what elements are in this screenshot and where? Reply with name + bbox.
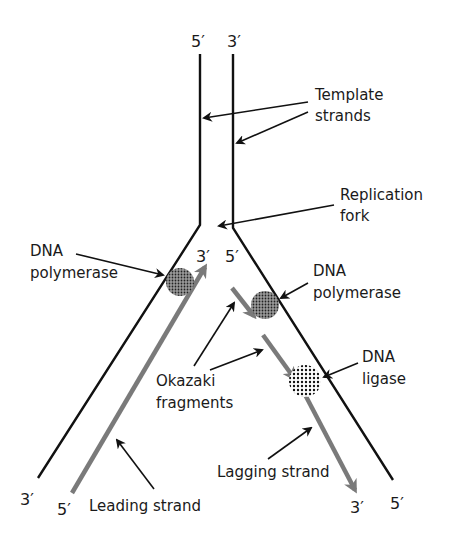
label-polymerase-left-line2: polymerase xyxy=(30,264,118,282)
label-bottom-left-5prime: 5′ xyxy=(57,500,71,519)
label-lagging-strand: Lagging strand xyxy=(217,463,330,481)
leading-strand-pointer xyxy=(117,440,154,489)
lagging-strand-pointer xyxy=(268,428,311,459)
label-fork-5prime: 5′ xyxy=(225,247,239,266)
label-top-5prime: 5′ xyxy=(191,32,205,51)
descriptive-labels: Template strands Replication fork DNA po… xyxy=(30,86,423,515)
label-template-line1: Template xyxy=(314,86,383,104)
label-top-3prime: 3′ xyxy=(227,32,241,51)
label-polymerase-right-line2: polymerase xyxy=(313,284,401,302)
ligase-pointer xyxy=(324,363,358,377)
label-fork-line2: fork xyxy=(340,207,370,225)
okazaki-fragment-2 xyxy=(263,335,294,378)
label-polymerase-left-line1: DNA xyxy=(30,242,64,260)
dna-replication-diagram: 5′ 3′ 3′ 5′ 3′ 5′ 3′ 5′ Template strands… xyxy=(0,0,452,540)
okazaki-pointer-upper xyxy=(194,303,234,366)
okazaki-fragment-1 xyxy=(232,288,254,316)
dna-ligase-icon xyxy=(289,365,321,397)
label-fork-line1: Replication xyxy=(340,186,423,204)
okazaki-pointer-lower xyxy=(210,350,262,370)
fork-pointer xyxy=(219,205,334,226)
label-bottom-right-3prime: 3′ xyxy=(350,498,364,517)
label-ligase-line2: ligase xyxy=(362,370,406,388)
dna-polymerase-left-icon xyxy=(166,268,194,296)
label-leading-strand: Leading strand xyxy=(89,497,201,515)
label-template-line2: strands xyxy=(315,107,371,125)
dna-polymerase-right-icon xyxy=(251,291,279,319)
label-ligase-line1: DNA xyxy=(362,348,396,366)
label-fork-3prime: 3′ xyxy=(196,247,210,266)
template-pointer-right xyxy=(237,112,308,143)
label-bottom-left-3prime: 3′ xyxy=(20,490,34,509)
label-polymerase-right-line1: DNA xyxy=(313,262,347,280)
label-bottom-right-5prime: 5′ xyxy=(390,494,404,513)
polymerase-right-pointer xyxy=(281,283,308,298)
label-okazaki-line1: Okazaki xyxy=(156,372,215,390)
label-okazaki-line2: fragments xyxy=(156,394,233,412)
template-pointer-left xyxy=(204,102,308,118)
